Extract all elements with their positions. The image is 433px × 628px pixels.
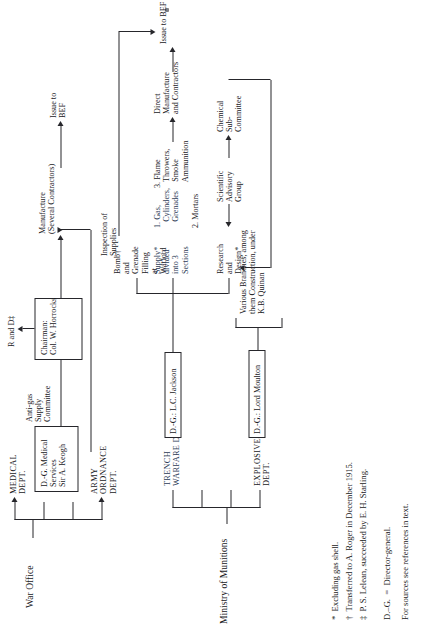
dg-lord-moulton-label: D.-G.: Lord Moulton [252, 365, 261, 434]
munitions-root-label: Ministry of Munitions [218, 539, 229, 624]
dg-medical-services-label: D.-G. Medical Services Sir A. Keogh [39, 439, 67, 487]
scientific-advisory-group-label: Scientific Advisory Group [215, 171, 243, 202]
moulton-to-branches-line [257, 328, 258, 350]
munitions-branch-2-line [201, 490, 202, 508]
sources-note: For sources see references in text. [398, 504, 410, 620]
fan-to-bomb-line [136, 278, 137, 294]
footnote-1: * Excluding gas shell. [328, 542, 340, 620]
direct-to-issue-line [172, 52, 173, 72]
various-branches-bottom-tick [281, 318, 282, 328]
manufacture-several-contractors-label: Manufacture (Several Contractors) [37, 164, 55, 234]
war-office-branch-2-line [43, 502, 44, 520]
chairman-to-manufacture-line [60, 240, 61, 298]
war-office-branch-ordnance-line [101, 502, 102, 520]
various-branches-top-tick [235, 318, 236, 328]
anti-gas-supply-committee-label: Anti-gas Supply Committee [24, 386, 52, 422]
chemical-loop-right [228, 79, 270, 80]
chairman-to-rd-stem [22, 328, 34, 329]
legend-dg: D.–G. = Director-general. [380, 527, 392, 620]
munitions-branch-3-line [230, 490, 231, 508]
sections-to-direct-arrow [169, 117, 175, 122]
ordnance-to-inspection-line [90, 230, 91, 452]
war-office-issue-to-bef-label: Issue to BEF [48, 93, 66, 118]
chemical-loop-arrow [239, 265, 244, 271]
war-office-branch-ordnance-label: ARMY ORDNANCE DEPT. [89, 446, 117, 495]
chemical-loop-left [244, 267, 270, 268]
organisation-chart: War Office MEDICAL DEPT. ARMY ORDNANCE D… [0, 0, 433, 628]
footnote-2: † Transferred to A. Roger in December 19… [342, 462, 354, 620]
supply-section-3-label: 3. Flame Throwers, Smoke Ammunition [152, 140, 189, 188]
dg-lc-jackson-label: D.-G.: L.C. Jackson [168, 369, 177, 435]
chemical-loop-bottom [270, 80, 271, 268]
scientific-to-research-line [228, 204, 229, 222]
inspection-to-manufacture-arrow [57, 227, 62, 233]
war-office-branch-medical-label: MEDICAL DEPT. [8, 454, 27, 494]
war-office-branch-ordnance-arrow [98, 497, 104, 502]
supply-section-2-label: 2. Mortars [190, 194, 199, 228]
footnote-3: ‡ P. S. Lelean, succeeded by E. H. Starl… [356, 469, 368, 620]
sections-to-direct-line [172, 122, 173, 142]
manufacture-to-issue-arrow [57, 121, 63, 126]
supply-divided-label: Supply* divided into 3 Sections [152, 246, 189, 274]
munitions-root-stem [226, 508, 227, 524]
munitions-bus [172, 507, 260, 508]
chairman-label: Chairman: Col. W. Horrocks [39, 298, 57, 355]
direct-manufacture-label: Direct Manufacture and Contractors [152, 62, 180, 114]
fan-to-supply-line [172, 278, 173, 294]
manufacture-to-issue-line [60, 126, 61, 168]
war-office-root-label: War Office [24, 566, 35, 608]
medical-to-antigas-line [60, 384, 61, 426]
r-and-d-label: R and D‡ [6, 316, 15, 347]
bomb-to-issue-arrow [150, 29, 155, 35]
inspection-drop-line [60, 229, 90, 230]
bomb-to-issue-line [118, 32, 119, 236]
munitions-branch-explosives-label: EXPLOSIVES DEPT. [252, 433, 271, 486]
munitions-issue-to-bef-label: Issue to BEF [158, 2, 167, 44]
chairman-to-rd-arrow [17, 326, 22, 332]
various-branches-bracket [235, 327, 281, 328]
rotated-figure-wrapper: War Office MEDICAL DEPT. ARMY ORDNANCE D… [0, 0, 433, 628]
scientific-to-research-arrow [225, 222, 231, 227]
antigas-to-chairman-line [60, 360, 61, 384]
trench-fan-bus [136, 293, 228, 294]
scientific-to-chemical-line [228, 140, 229, 158]
munitions-branch-trench-line [172, 490, 173, 508]
war-office-root-stem [32, 520, 33, 538]
bomb-issue-drop [118, 31, 152, 32]
research-and-design-label: Research and Design* [215, 244, 243, 274]
supply-section-1-label: 1. Gas, Cylinders, Grenades [152, 188, 180, 228]
war-office-branch-3-line [72, 502, 73, 520]
war-office-branch-medical-line [14, 502, 15, 520]
jackson-out-line [172, 294, 173, 352]
war-office-bus [14, 519, 102, 520]
chemical-sub-committee-label: Chemical Sub- Committee [215, 96, 243, 132]
direct-to-issue-arrow [169, 47, 175, 52]
munitions-branch-explosives-line [259, 490, 260, 508]
fan-to-research-line [228, 278, 229, 294]
chairman-to-manufacture-arrow [57, 235, 63, 240]
scientific-to-chemical-arrow [225, 135, 231, 140]
war-office-branch-medical-arrow [11, 497, 17, 502]
